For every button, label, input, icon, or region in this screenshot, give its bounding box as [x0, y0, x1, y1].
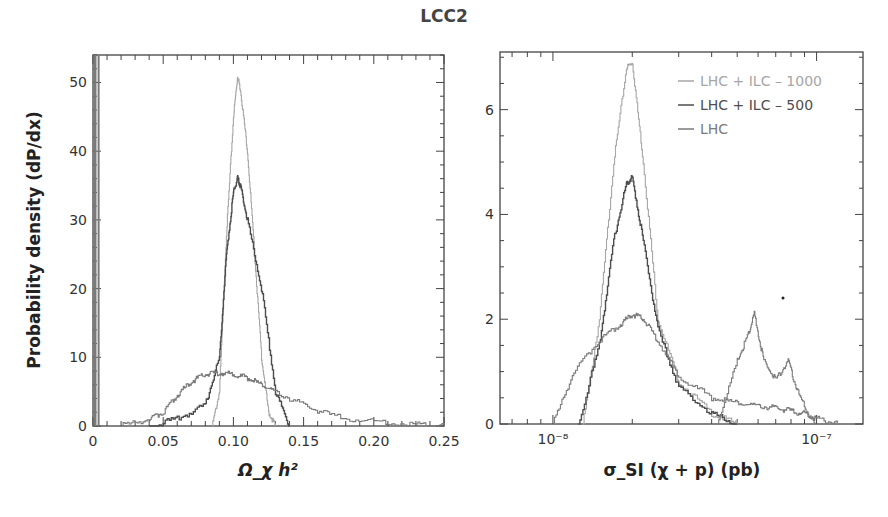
- legend-item: LHC + ILC – 500: [700, 97, 813, 113]
- series-line: [578, 176, 737, 424]
- y-tick-label: 0: [485, 416, 494, 432]
- y-tick-label: 20: [69, 281, 87, 297]
- x-tick-label: 0.15: [288, 433, 319, 449]
- series-line: [583, 63, 737, 424]
- y-tick-label: 30: [69, 212, 87, 228]
- y-tick-label: 2: [485, 311, 494, 327]
- x-tick-label: 0.20: [358, 433, 389, 449]
- series-line: [553, 313, 837, 424]
- legend-item: LHC + ILC – 1000: [700, 73, 822, 89]
- x-tick-label: 0: [89, 433, 98, 449]
- x-axis-label: Ω_χ h²: [237, 460, 298, 480]
- x-tick-label: 0.05: [148, 433, 179, 449]
- x-tick-label: 0.10: [218, 433, 249, 449]
- y-axis-label: Probability density (dP/dx): [24, 111, 44, 368]
- x-tick-label: 0.25: [428, 433, 459, 449]
- left-panel: 0102030405000.050.100.150.200.25: [69, 55, 459, 449]
- x-tick-label: 10⁻⁷: [801, 431, 832, 447]
- chart-svg: 0102030405000.050.100.150.200.25Probabil…: [0, 0, 888, 517]
- series-line: [121, 371, 444, 426]
- legend-item: LHC: [700, 121, 728, 137]
- y-tick-label: 40: [69, 143, 87, 159]
- dot-marker: [782, 297, 785, 300]
- y-tick-label: 0: [78, 418, 87, 434]
- x-axis-label: σ_SI (χ + p) (pb): [604, 460, 761, 480]
- legend: LHC + ILC – 1000LHC + ILC – 500LHC: [678, 73, 822, 137]
- y-tick-label: 10: [69, 349, 87, 365]
- y-tick-label: 4: [485, 206, 494, 222]
- plot-frame: [93, 55, 444, 426]
- y-tick-label: 6: [485, 102, 494, 118]
- y-tick-label: 50: [69, 74, 87, 90]
- x-tick-label: 10⁻⁸: [537, 431, 568, 447]
